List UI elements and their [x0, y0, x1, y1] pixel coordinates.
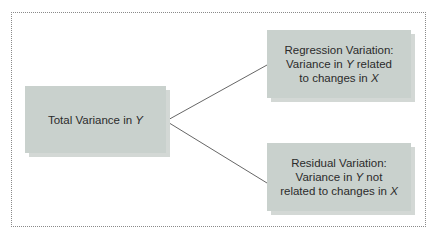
regression-title: Regression Variation: — [284, 43, 393, 57]
residual-title: Residual Variation: — [280, 156, 398, 170]
residual-line-3: related to changes in X — [280, 184, 398, 198]
residual-line-2: Variance in Y not — [280, 170, 398, 184]
root-node-label: Total Variance in Y — [48, 113, 143, 127]
regression-node-box: Regression Variation: Variance in Y rela… — [267, 30, 411, 98]
residual-node-label: Residual Variation: Variance in Y not re… — [280, 156, 398, 198]
connector-to-regression — [166, 65, 267, 121]
root-node-box: Total Variance in Y — [25, 86, 166, 153]
regression-node-label: Regression Variation: Variance in Y rela… — [284, 43, 393, 85]
residual-node-box: Residual Variation: Variance in Y not re… — [267, 143, 411, 211]
regression-line-2: Variance in Y related — [284, 57, 393, 71]
connector-to-residual — [166, 121, 267, 183]
regression-line-3: to changes in X — [284, 71, 393, 85]
